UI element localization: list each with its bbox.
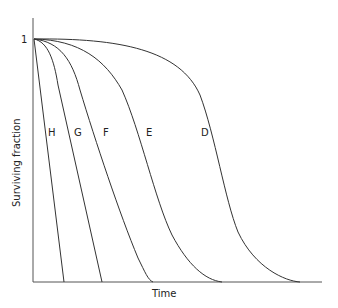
curve-H bbox=[34, 39, 64, 282]
label-D: D bbox=[201, 127, 209, 138]
curve-G bbox=[34, 39, 102, 282]
label-H: H bbox=[48, 127, 56, 138]
label-G: G bbox=[74, 127, 82, 138]
curve-E bbox=[34, 39, 222, 282]
x-axis-label: Time bbox=[151, 288, 176, 299]
y-axis-label: Surviving fraction bbox=[11, 119, 22, 207]
label-F: F bbox=[103, 127, 109, 138]
survival-curves-chart: 1 Time Surviving fraction D E F G H bbox=[0, 0, 338, 308]
y-tick-1: 1 bbox=[21, 34, 27, 45]
label-E: E bbox=[146, 127, 152, 138]
curve-D bbox=[34, 39, 300, 282]
